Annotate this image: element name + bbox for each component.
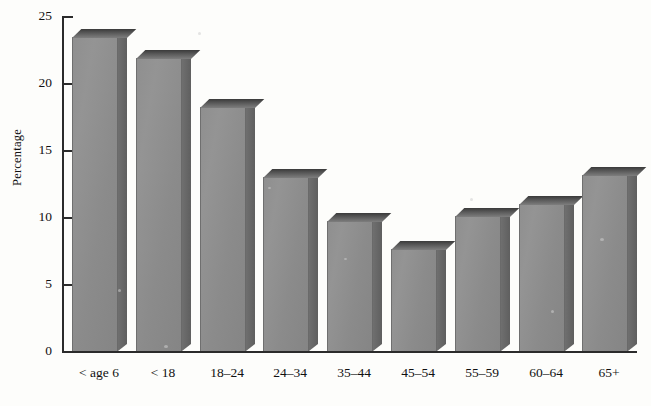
bar — [263, 177, 319, 351]
paper-speck — [118, 289, 121, 292]
bar — [519, 204, 575, 351]
paper-speck — [344, 258, 347, 260]
paper-speck — [600, 238, 604, 241]
bar-top-face — [72, 29, 136, 38]
bar-front-face — [327, 221, 373, 351]
bar-front-face — [136, 58, 182, 351]
bar — [200, 107, 256, 351]
bar-top-face — [519, 196, 583, 205]
bar-front-face — [263, 177, 309, 351]
bar — [327, 221, 383, 351]
bar-front-face — [72, 37, 118, 351]
bar-side-face — [501, 209, 510, 351]
x-axis-label: 65+ — [567, 365, 651, 381]
bar-side-face — [309, 170, 318, 351]
bar-top-face — [263, 169, 327, 178]
bar-top-face — [136, 50, 200, 59]
bar-top-face — [582, 167, 646, 176]
bar-top-face — [200, 99, 264, 108]
bar-top-face — [327, 213, 391, 222]
bar — [455, 216, 511, 351]
paper-speck — [198, 32, 201, 35]
paper-speck — [551, 310, 554, 313]
bar-side-face — [437, 242, 446, 351]
bar-side-face — [118, 30, 127, 351]
bar-side-face — [182, 51, 191, 351]
paper-speck — [470, 198, 473, 201]
bar — [136, 58, 192, 351]
bar-front-face — [200, 107, 246, 351]
bar-front-face — [391, 249, 437, 351]
bar-side-face — [565, 197, 574, 351]
bar-top-face — [455, 208, 519, 217]
paper-speck — [164, 345, 168, 348]
bar-front-face — [582, 175, 628, 351]
bar-side-face — [373, 214, 382, 351]
bar-front-face — [455, 216, 501, 351]
bar — [72, 37, 128, 351]
bar-front-face — [519, 204, 565, 351]
bar-top-face — [391, 241, 455, 250]
bar — [582, 175, 638, 351]
bar — [391, 249, 447, 351]
bar-side-face — [628, 168, 637, 351]
paper-speck — [268, 187, 271, 189]
bar-side-face — [246, 100, 255, 351]
